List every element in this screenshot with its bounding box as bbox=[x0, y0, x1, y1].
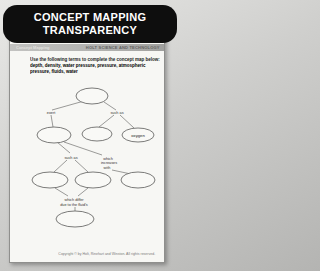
node-blank-pressure bbox=[37, 127, 71, 143]
edge-label-suchas-mid: such as bbox=[64, 156, 77, 160]
connector-node5-to-differ bbox=[55, 188, 68, 196]
concept-map-diagram: oxygen exert such as such as which incre… bbox=[10, 80, 163, 238]
title-banner: CONCEPT MAPPING TRANSPARENCY bbox=[3, 5, 177, 43]
page-header-bar: Concept Mapping HOLT SCIENCE AND TECHNOL… bbox=[10, 44, 164, 51]
page-header-right-label: HOLT SCIENCE AND TECHNOLOGY bbox=[86, 45, 160, 50]
node-blank-atmospheric-pressure bbox=[75, 172, 111, 188]
connector-top-to-suchas bbox=[104, 102, 116, 110]
node-blank-water bbox=[82, 127, 112, 141]
edge-label-increases-line3: with bbox=[104, 166, 111, 170]
instructions-block: Use the following terms to complete the … bbox=[30, 57, 156, 79]
instructions-term-list: depth, density, water pressure, pressure… bbox=[30, 63, 149, 74]
node-blank-top bbox=[76, 88, 108, 104]
banner-title-line1: CONCEPT MAPPING bbox=[34, 11, 147, 24]
node-blank-water-pressure bbox=[32, 172, 68, 188]
footer: Copyright © by Holt, Rinehart and Winsto… bbox=[10, 240, 164, 258]
connector-suchas-to-oxygen bbox=[120, 115, 134, 128]
page-header-left-label: Concept Mapping bbox=[16, 45, 50, 50]
copyright-text: Copyright © by Holt, Rinehart and Winsto… bbox=[58, 252, 155, 256]
connector-suchas-to-node3 bbox=[99, 115, 114, 127]
connector-node6-to-differ bbox=[78, 188, 88, 196]
connector-suchas2-to-node5 bbox=[54, 160, 67, 172]
banner-title-line2: TRANSPARENCY bbox=[43, 24, 137, 37]
node-oxygen-label: oxygen bbox=[131, 133, 145, 138]
node-blank-density bbox=[56, 211, 94, 227]
edge-label-suchas-top: such as bbox=[110, 111, 123, 115]
instructions-prompt: Use the following terms to complete the … bbox=[30, 57, 160, 62]
edge-label-increases-line1: which bbox=[103, 157, 113, 161]
node-blank-depth bbox=[121, 172, 155, 188]
connector-exert-to-node2 bbox=[51, 115, 53, 127]
edge-label-differ-line2: due to the fluid's bbox=[60, 203, 88, 207]
connector-top-to-exert bbox=[52, 101, 84, 110]
connector-suchas2-to-node6 bbox=[75, 160, 88, 172]
edge-label-increases-line2: increases bbox=[101, 161, 117, 165]
edge-label-exert: exert bbox=[47, 111, 56, 115]
worksheet-page: Concept Mapping HOLT SCIENCE AND TECHNOL… bbox=[9, 26, 165, 263]
edge-label-differ-line1: which differ bbox=[64, 198, 84, 202]
